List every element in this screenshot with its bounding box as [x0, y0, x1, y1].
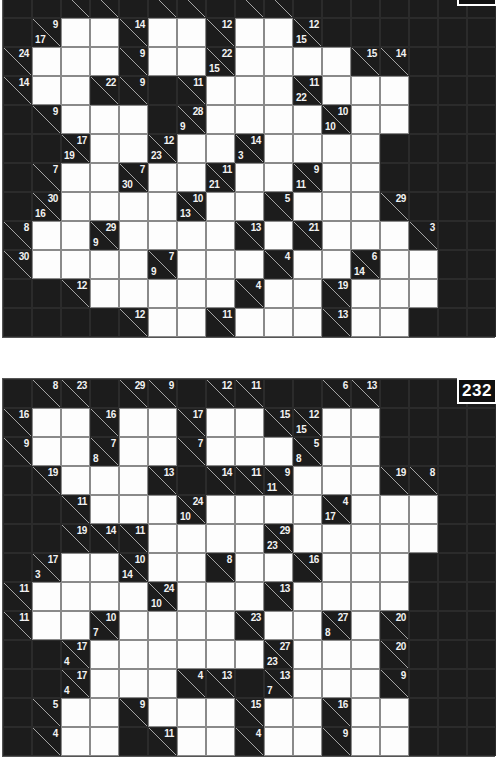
- entry-cell[interactable]: [235, 18, 264, 47]
- entry-cell[interactable]: [235, 250, 264, 279]
- entry-cell[interactable]: [293, 192, 322, 221]
- entry-cell[interactable]: [351, 437, 380, 466]
- entry-cell[interactable]: [32, 408, 61, 437]
- entry-cell[interactable]: [177, 727, 206, 756]
- entry-cell[interactable]: [380, 221, 409, 250]
- entry-cell[interactable]: [61, 698, 90, 727]
- entry-cell[interactable]: [90, 163, 119, 192]
- entry-cell[interactable]: [235, 640, 264, 669]
- entry-cell[interactable]: [293, 524, 322, 553]
- entry-cell[interactable]: [322, 76, 351, 105]
- entry-cell[interactable]: [380, 279, 409, 308]
- entry-cell[interactable]: [351, 582, 380, 611]
- entry-cell[interactable]: [351, 466, 380, 495]
- entry-cell[interactable]: [177, 553, 206, 582]
- entry-cell[interactable]: [322, 250, 351, 279]
- entry-cell[interactable]: [235, 105, 264, 134]
- entry-cell[interactable]: [119, 134, 148, 163]
- entry-cell[interactable]: [148, 611, 177, 640]
- entry-cell[interactable]: [380, 727, 409, 756]
- entry-cell[interactable]: [148, 163, 177, 192]
- entry-cell[interactable]: [90, 727, 119, 756]
- entry-cell[interactable]: [380, 524, 409, 553]
- entry-cell[interactable]: [206, 640, 235, 669]
- entry-cell[interactable]: [61, 553, 90, 582]
- entry-cell[interactable]: [351, 669, 380, 698]
- entry-cell[interactable]: [351, 163, 380, 192]
- entry-cell[interactable]: [351, 524, 380, 553]
- entry-cell[interactable]: [380, 698, 409, 727]
- entry-cell[interactable]: [90, 18, 119, 47]
- entry-cell[interactable]: [32, 437, 61, 466]
- entry-cell[interactable]: [90, 466, 119, 495]
- entry-cell[interactable]: [32, 611, 61, 640]
- entry-cell[interactable]: [90, 669, 119, 698]
- entry-cell[interactable]: [206, 495, 235, 524]
- entry-cell[interactable]: [235, 47, 264, 76]
- entry-cell[interactable]: [119, 192, 148, 221]
- entry-cell[interactable]: [264, 727, 293, 756]
- entry-cell[interactable]: [177, 698, 206, 727]
- entry-cell[interactable]: [293, 105, 322, 134]
- entry-cell[interactable]: [380, 308, 409, 337]
- entry-cell[interactable]: [409, 250, 438, 279]
- entry-cell[interactable]: [206, 105, 235, 134]
- entry-cell[interactable]: [61, 582, 90, 611]
- entry-cell[interactable]: [206, 408, 235, 437]
- entry-cell[interactable]: [351, 134, 380, 163]
- entry-cell[interactable]: [90, 192, 119, 221]
- entry-cell[interactable]: [235, 553, 264, 582]
- entry-cell[interactable]: [177, 308, 206, 337]
- entry-cell[interactable]: [264, 553, 293, 582]
- entry-cell[interactable]: [264, 437, 293, 466]
- entry-cell[interactable]: [235, 495, 264, 524]
- entry-cell[interactable]: [322, 553, 351, 582]
- entry-cell[interactable]: [119, 495, 148, 524]
- entry-cell[interactable]: [90, 582, 119, 611]
- entry-cell[interactable]: [322, 466, 351, 495]
- entry-cell[interactable]: [148, 495, 177, 524]
- entry-cell[interactable]: [380, 582, 409, 611]
- entry-cell[interactable]: [293, 134, 322, 163]
- entry-cell[interactable]: [351, 553, 380, 582]
- entry-cell[interactable]: [119, 408, 148, 437]
- entry-cell[interactable]: [119, 640, 148, 669]
- entry-cell[interactable]: [206, 727, 235, 756]
- entry-cell[interactable]: [90, 134, 119, 163]
- entry-cell[interactable]: [380, 495, 409, 524]
- entry-cell[interactable]: [90, 495, 119, 524]
- entry-cell[interactable]: [235, 437, 264, 466]
- entry-cell[interactable]: [177, 163, 206, 192]
- entry-cell[interactable]: [322, 221, 351, 250]
- entry-cell[interactable]: [322, 47, 351, 76]
- entry-cell[interactable]: [351, 76, 380, 105]
- entry-cell[interactable]: [264, 76, 293, 105]
- entry-cell[interactable]: [206, 76, 235, 105]
- entry-cell[interactable]: [148, 221, 177, 250]
- entry-cell[interactable]: [293, 669, 322, 698]
- entry-cell[interactable]: [90, 105, 119, 134]
- entry-cell[interactable]: [61, 105, 90, 134]
- entry-cell[interactable]: [322, 640, 351, 669]
- entry-cell[interactable]: [264, 495, 293, 524]
- entry-cell[interactable]: [264, 18, 293, 47]
- entry-cell[interactable]: [148, 437, 177, 466]
- entry-cell[interactable]: [119, 437, 148, 466]
- entry-cell[interactable]: [206, 134, 235, 163]
- entry-cell[interactable]: [148, 524, 177, 553]
- entry-cell[interactable]: [351, 727, 380, 756]
- entry-cell[interactable]: [119, 466, 148, 495]
- entry-cell[interactable]: [32, 47, 61, 76]
- entry-cell[interactable]: [148, 47, 177, 76]
- entry-cell[interactable]: [177, 47, 206, 76]
- entry-cell[interactable]: [293, 495, 322, 524]
- entry-cell[interactable]: [90, 640, 119, 669]
- entry-cell[interactable]: [322, 192, 351, 221]
- entry-cell[interactable]: [61, 611, 90, 640]
- entry-cell[interactable]: [61, 163, 90, 192]
- entry-cell[interactable]: [61, 408, 90, 437]
- entry-cell[interactable]: [177, 524, 206, 553]
- entry-cell[interactable]: [264, 47, 293, 76]
- entry-cell[interactable]: [206, 250, 235, 279]
- entry-cell[interactable]: [177, 18, 206, 47]
